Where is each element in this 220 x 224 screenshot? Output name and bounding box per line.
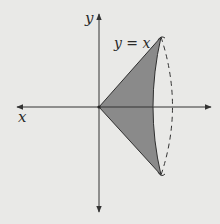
curve-label: y = x [113,35,151,51]
ellipse-back-dashed [161,37,173,175]
cone-diagram: y x y = x [0,0,220,224]
y-axis-label: y [84,9,94,27]
shaded-cone-region [99,37,161,175]
origin-point [97,105,100,108]
x-axis-label: x [18,108,27,126]
